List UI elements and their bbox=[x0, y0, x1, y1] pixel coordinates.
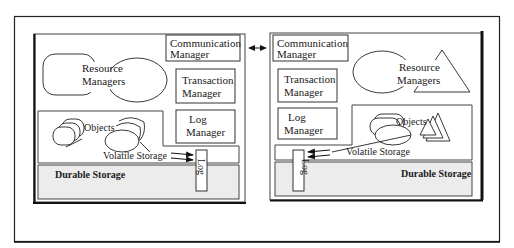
svg-text:Manager: Manager bbox=[170, 48, 209, 60]
right-objects-label: Objects bbox=[396, 116, 427, 127]
right-durable-storage-label: Durable Storage bbox=[401, 168, 472, 179]
svg-text:Manager: Manager bbox=[284, 86, 323, 98]
right-resource-managers-label: Resource bbox=[399, 61, 440, 73]
svg-text:Log: Log bbox=[288, 111, 306, 123]
left-objects-label: Objects bbox=[84, 122, 115, 133]
svg-text:Manager: Manager bbox=[284, 124, 323, 136]
svg-text:Log: Log bbox=[196, 159, 207, 175]
svg-text:Manager: Manager bbox=[277, 48, 316, 60]
svg-text:Log: Log bbox=[189, 113, 207, 125]
svg-text:Manager: Manager bbox=[186, 126, 225, 138]
left-node: Resource Managers Communication Manager … bbox=[33, 34, 246, 203]
diagram-canvas: Resource Managers Communication Manager … bbox=[0, 0, 514, 248]
svg-text:Managers: Managers bbox=[397, 74, 440, 86]
right-volatile-storage-label: Volatile Storage bbox=[346, 146, 411, 157]
left-resource-managers-label: Resource bbox=[82, 62, 123, 74]
right-node: Communication Manager Transaction Manage… bbox=[270, 31, 483, 201]
svg-text:Transaction: Transaction bbox=[182, 74, 234, 86]
svg-text:Managers: Managers bbox=[82, 75, 125, 87]
svg-text:Transaction: Transaction bbox=[284, 73, 336, 85]
left-volatile-storage-label: Volatile Storage bbox=[103, 150, 168, 161]
svg-text:Log: Log bbox=[300, 159, 311, 175]
svg-text:Manager: Manager bbox=[182, 87, 221, 99]
left-durable-storage-label: Durable Storage bbox=[55, 169, 126, 180]
